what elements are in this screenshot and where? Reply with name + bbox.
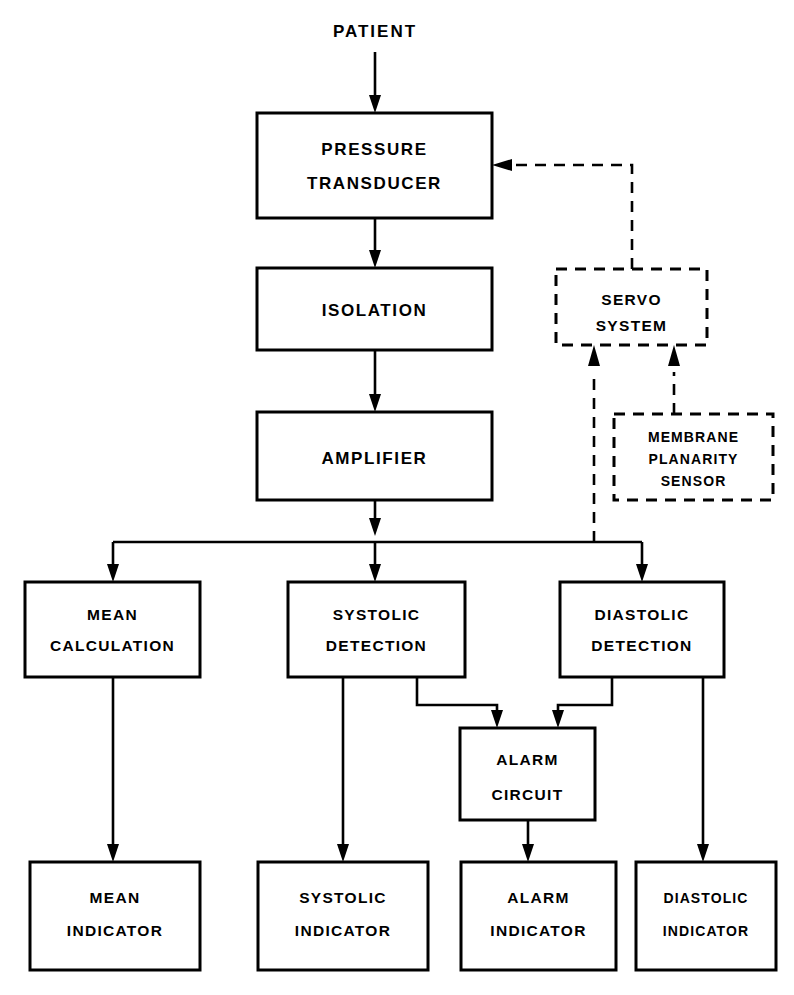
arrowhead-mean-calculation-to-mean-indicator	[107, 844, 119, 862]
block-mean-indicator[interactable]	[30, 862, 200, 970]
block-systolic-indicator[interactable]	[258, 862, 428, 970]
block-systolic-detection-line2: DETECTION	[326, 637, 427, 654]
arrowhead-alarm-circuit-to-alarm-indicator	[522, 844, 534, 862]
block-systolic-detection[interactable]	[288, 582, 465, 677]
arrowhead-diastolic-detection-to-diastolic-indicator	[697, 844, 709, 862]
arrowhead-servo-to-transducer	[492, 159, 512, 171]
block-mean-calculation-line2: CALCULATION	[50, 637, 175, 654]
block-alarm-circuit[interactable]	[460, 728, 595, 820]
block-diastolic-detection[interactable]	[560, 582, 724, 677]
diagram-canvas: PATIENT PRESSURE TRANSDUCER ISOLATION AM…	[0, 0, 794, 995]
block-alarm-indicator[interactable]	[461, 862, 616, 970]
block-pressure-transducer[interactable]	[257, 113, 492, 218]
block-diagram: PATIENT PRESSURE TRANSDUCER ISOLATION AM…	[0, 0, 794, 995]
block-diastolic-detection-line2: DETECTION	[591, 637, 692, 654]
arrowhead-systolic-detection-to-systolic-indicator	[337, 844, 349, 862]
arrowhead-diastolic-detection-to-alarm-circuit	[552, 710, 564, 728]
block-mean-indicator-line1: MEAN	[90, 889, 141, 906]
arrowhead-transducer-to-isolation	[369, 250, 381, 268]
block-alarm-circuit-line1: ALARM	[496, 751, 558, 768]
block-mean-calculation[interactable]	[25, 582, 200, 677]
block-pressure-transducer-line2: TRANSDUCER	[307, 174, 442, 193]
block-alarm-circuit-line2: CIRCUIT	[492, 786, 564, 803]
block-membrane-planarity-sensor-line2: PLANARITY	[648, 451, 738, 467]
arrowhead-bus-to-systolic-detection	[369, 564, 381, 582]
block-amplifier-line1: AMPLIFIER	[321, 449, 427, 468]
patient-label: PATIENT	[333, 22, 417, 41]
block-pressure-transducer-line1: PRESSURE	[321, 140, 427, 159]
connector-servo-to-transducer	[508, 165, 632, 269]
block-membrane-planarity-sensor-line1: MEMBRANE	[648, 429, 739, 445]
block-systolic-indicator-line2: INDICATOR	[295, 922, 391, 939]
block-diastolic-indicator[interactable]	[636, 862, 776, 970]
block-diastolic-detection-line1: DIASTOLIC	[595, 606, 690, 623]
block-servo-system-line2: SYSTEM	[596, 317, 668, 334]
arrowhead-isolation-to-amplifier	[369, 394, 381, 412]
block-diastolic-indicator-line2: INDICATOR	[663, 923, 749, 939]
arrowhead-patient-to-transducer	[369, 95, 381, 113]
arrowhead-bus-to-diastolic-detection	[636, 564, 648, 582]
block-alarm-indicator-line1: ALARM	[507, 889, 569, 906]
arrowhead-systolic-detection-to-alarm-circuit	[491, 710, 503, 728]
block-diastolic-indicator-line1: DIASTOLIC	[663, 890, 748, 906]
block-mean-indicator-line2: INDICATOR	[67, 922, 163, 939]
arrowhead-bus-to-mean-calculation	[107, 564, 119, 582]
connector-systolic-detection-to-alarm-circuit	[417, 677, 497, 715]
block-systolic-indicator-line1: SYSTOLIC	[299, 889, 387, 906]
block-alarm-indicator-line2: INDICATOR	[490, 922, 586, 939]
arrowhead-bus-to-servo-system	[588, 345, 600, 366]
block-servo-system-line1: SERVO	[601, 291, 662, 308]
block-membrane-planarity-sensor-line3: SENSOR	[661, 473, 727, 489]
connector-diastolic-detection-to-alarm-circuit	[558, 677, 612, 715]
block-systolic-detection-line1: SYSTOLIC	[333, 606, 421, 623]
arrowhead-membrane-sensor-to-servo	[668, 345, 680, 366]
block-isolation-line1: ISOLATION	[322, 301, 428, 320]
arrowhead-amplifier-to-bus	[369, 518, 381, 536]
block-mean-calculation-line1: MEAN	[87, 606, 138, 623]
